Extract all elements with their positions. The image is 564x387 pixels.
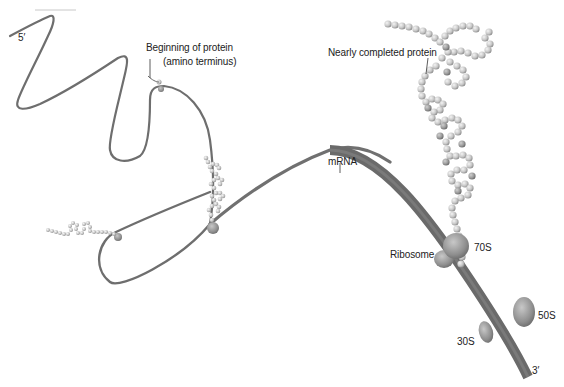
protein-chain-short: [46, 221, 122, 241]
subunit-50s: [513, 297, 535, 327]
nearly-completed-protein-label: Nearly completed protein: [328, 47, 437, 59]
translation-diagram: [0, 0, 564, 387]
50s-label: 50S: [538, 310, 556, 322]
three-prime-label: 3′: [532, 365, 539, 377]
70s-label: 70S: [474, 242, 492, 254]
mrna-strand-thick: [330, 150, 528, 377]
mrna-label: mRNA: [328, 156, 357, 168]
30s-label: 30S: [457, 336, 475, 348]
beginning-protein-label-line1: Beginning of protein: [146, 42, 233, 54]
five-prime-label: 5′: [18, 32, 25, 44]
ribosome-label: Ribosome: [390, 249, 434, 261]
protein-chain-medium: [204, 156, 226, 234]
beginning-protein-label-line2: (amino terminus): [163, 56, 236, 68]
